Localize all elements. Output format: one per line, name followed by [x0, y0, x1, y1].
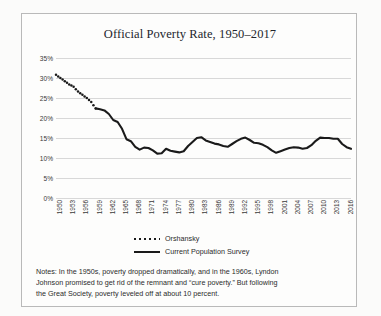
series-point-orshansky	[61, 78, 64, 81]
notes-line-2: Johnson promised to get rid of the remna…	[36, 277, 341, 288]
series-point-orshansky	[70, 84, 73, 87]
series-point-orshansky	[72, 86, 75, 89]
x-axis-tick: 1959	[96, 200, 103, 214]
plot-area	[56, 58, 351, 198]
legend-label-current-population-survey: Current Population Survey	[165, 247, 249, 256]
series-point-orshansky	[92, 104, 95, 107]
chart-notes: Notes: In the 1950s, poverty dropped dra…	[36, 266, 341, 299]
x-axis-tick: 1986	[215, 200, 222, 214]
x-axis-tick: 1980	[188, 200, 195, 214]
x-axis-tick: 1989	[228, 200, 235, 214]
x-axis-tick: 1950	[56, 200, 63, 214]
y-axis-tick: 25%	[40, 95, 53, 102]
series-dots-orshansky	[55, 74, 97, 110]
y-axis-tick: 5%	[43, 175, 53, 182]
series-point-orshansky	[83, 95, 86, 98]
x-axis-tick: 2016	[347, 200, 354, 214]
series-point-orshansky	[59, 77, 62, 80]
legend-label-orshansky: Orshansky	[165, 234, 199, 243]
y-axis: 35%30%25%20%15%10%5%0%	[29, 58, 55, 198]
series-point-orshansky	[64, 80, 66, 83]
series-point-orshansky	[94, 107, 97, 110]
x-axis-tick: 2007	[307, 200, 314, 214]
x-axis-tick: 2004	[294, 200, 301, 214]
x-axis-tick: 2010	[320, 200, 327, 214]
y-axis-tick: 10%	[40, 155, 53, 162]
x-axis-tick: 1965	[122, 200, 129, 214]
chart-card: Official Poverty Rate, 1950–2017 35%30%2…	[21, 13, 357, 307]
series-point-orshansky	[79, 92, 82, 95]
x-axis-tick: 2013	[333, 200, 340, 214]
x-axis-tick: 1968	[135, 200, 142, 214]
y-axis-tick: 35%	[40, 55, 53, 62]
x-axis-tick: 1971	[148, 200, 155, 214]
series-point-orshansky	[55, 74, 58, 77]
series-point-orshansky	[77, 90, 80, 93]
x-axis-tick: 2001	[281, 200, 288, 214]
series-point-orshansky	[68, 83, 71, 86]
x-axis-tick: 1983	[201, 200, 208, 214]
series-point-orshansky	[90, 101, 93, 104]
solid-line-icon	[134, 248, 160, 256]
series-point-orshansky	[88, 99, 91, 102]
series-point-orshansky	[75, 88, 78, 91]
dotted-line-icon	[134, 235, 160, 243]
series-point-orshansky	[81, 94, 84, 97]
chart-title: Official Poverty Rate, 1950–2017	[22, 27, 358, 42]
y-axis-tick: 30%	[40, 75, 53, 82]
series-point-orshansky	[57, 75, 60, 78]
notes-line-1: Notes: In the 1950s, poverty dropped dra…	[36, 266, 341, 277]
plot-area-wrapper: 35%30%25%20%15%10%5%0% 19501953195619591…	[29, 58, 351, 198]
x-axis-tick: 1995	[254, 200, 261, 214]
x-axis-tick: 1977	[175, 200, 182, 214]
legend-item-current-population-survey: Current Population Survey	[22, 245, 358, 258]
series-line-current-population-survey	[96, 108, 351, 153]
series-point-orshansky	[66, 82, 69, 85]
x-axis-tick: 1953	[69, 200, 76, 214]
chart-legend: Orshansky Current Population Survey	[22, 232, 358, 258]
series-canvas	[56, 58, 351, 198]
x-axis-tick: 1962	[109, 200, 116, 214]
x-axis-tick: 1998	[267, 200, 274, 214]
y-axis-tick: 20%	[40, 115, 53, 122]
series-point-orshansky	[86, 97, 89, 100]
legend-item-orshansky: Orshansky	[22, 232, 358, 245]
y-axis-tick: 15%	[40, 135, 53, 142]
x-axis-tick: 1974	[162, 200, 169, 214]
x-axis-tick: 1992	[241, 200, 248, 214]
notes-line-3: the Great Society, poverty leveled off a…	[36, 288, 341, 299]
x-axis-tick: 1956	[82, 200, 89, 214]
y-axis-tick: 0%	[43, 195, 53, 202]
gridline	[56, 198, 351, 199]
